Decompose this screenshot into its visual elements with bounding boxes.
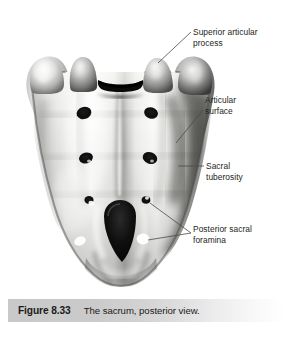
label-line-2: process: [193, 38, 258, 49]
label-line-2: surface: [205, 106, 236, 117]
figure-caption-bar: Figure 8.33 The sacrum, posterior view.: [8, 299, 284, 322]
label-posterior-sacral-foramina: Posterior sacral foramina: [193, 224, 252, 246]
label-line-2: tuberosity: [206, 172, 243, 183]
figure-caption-text: The sacrum, posterior view.: [84, 305, 200, 316]
label-superior-articular-process: Superior articular process: [193, 27, 258, 49]
figure-number: Figure 8.33: [18, 305, 71, 316]
superior-articular-process-right: [143, 58, 173, 93]
label-sacral-tuberosity: Sacral tuberosity: [206, 161, 243, 183]
label-line-2: foramina: [193, 235, 252, 246]
label-articular-surface: Articular surface: [205, 95, 236, 117]
label-line-1: Articular: [205, 95, 236, 106]
label-line-1: Superior articular: [193, 27, 258, 38]
sacrum-bone: [27, 57, 215, 292]
label-line-1: Posterior sacral: [193, 224, 252, 235]
label-line-1: Sacral: [206, 161, 243, 172]
superior-articular-process-left: [70, 57, 97, 92]
figure-container: Superior articular process Articular sur…: [0, 0, 291, 357]
